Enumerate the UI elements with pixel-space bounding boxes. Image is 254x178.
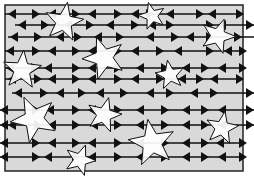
arrowhead-right-icon (246, 105, 254, 115)
arrowhead-right-icon (246, 120, 254, 130)
arrowhead-right-icon (246, 88, 254, 98)
arrowhead-left-icon (0, 120, 8, 130)
arrowhead-left-icon (0, 105, 8, 115)
arrowhead-left-icon (0, 138, 8, 148)
arrowhead-right-icon (246, 20, 254, 30)
arrowhead-left-icon (0, 152, 8, 162)
search-stimulus (0, 0, 254, 178)
